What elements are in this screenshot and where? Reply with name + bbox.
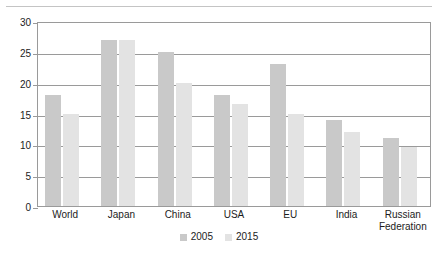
bar-2005 — [45, 95, 61, 206]
legend-label: 2005 — [191, 232, 213, 242]
bar-group — [151, 23, 207, 206]
bar-2005 — [270, 64, 286, 206]
y-tick-label: 0 — [25, 203, 31, 213]
y-tick-label: 20 — [20, 80, 31, 90]
y-tick-label: 10 — [20, 141, 31, 151]
legend-swatch-icon — [225, 234, 232, 241]
x-axis-label: World — [37, 209, 93, 221]
x-axis-label: EU — [262, 209, 318, 221]
bar-chart-figure: 051015202530 WorldJapanChinaUSAEUIndiaRu… — [0, 0, 438, 254]
x-axis-label: India — [318, 209, 374, 221]
x-axis-label: USA — [206, 209, 262, 221]
bar-2015 — [176, 83, 192, 206]
bar-2005 — [383, 138, 399, 206]
chart-legend: 20052015 — [0, 232, 438, 242]
bar-group — [94, 23, 150, 206]
bar-group — [207, 23, 263, 206]
bar-group — [38, 23, 94, 206]
bar-2015 — [63, 114, 79, 207]
y-tick-label: 25 — [20, 49, 31, 59]
x-axis-label: Japan — [93, 209, 149, 221]
bar-group — [263, 23, 319, 206]
title-divider — [6, 6, 432, 7]
bar-2005 — [158, 52, 174, 206]
y-tick-label: 15 — [20, 111, 31, 121]
bar-2015 — [232, 104, 248, 206]
bar-2015 — [401, 147, 417, 206]
x-axis-label: China — [150, 209, 206, 221]
bar-2005 — [326, 120, 342, 206]
legend-item[interactable]: 2015 — [225, 232, 258, 242]
legend-item[interactable]: 2005 — [180, 232, 213, 242]
y-tick-label: 30 — [20, 18, 31, 28]
plot-area: 051015202530 — [37, 22, 431, 207]
legend-label: 2015 — [236, 232, 258, 242]
bar-2015 — [119, 40, 135, 207]
legend-swatch-icon — [180, 234, 187, 241]
bar-2015 — [344, 132, 360, 206]
bar-2015 — [288, 114, 304, 207]
x-axis-label: Russian Federation — [375, 209, 431, 233]
bar-2005 — [214, 95, 230, 206]
y-tick-label: 5 — [25, 172, 31, 182]
bar-group — [319, 23, 375, 206]
bar-2005 — [101, 40, 117, 207]
bars-layer — [38, 23, 430, 206]
bar-group — [376, 23, 432, 206]
